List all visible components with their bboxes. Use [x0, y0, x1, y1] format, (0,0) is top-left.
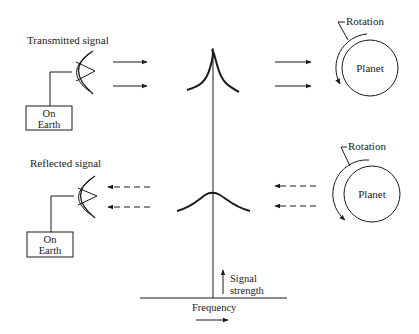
earth-station-box-top: On Earth: [26, 106, 72, 130]
earth-station-box-bottom: On Earth: [27, 232, 73, 257]
earth-box-line1: On: [43, 108, 57, 119]
signal-label-line2: strength: [230, 285, 265, 296]
reflect-arrows-left: [108, 187, 150, 207]
transmit-arrows-left: [113, 62, 147, 86]
signal-label-line1: Signal: [230, 273, 257, 284]
earth-box-line2: Earth: [38, 119, 61, 130]
rotation-label-top: Rotation: [346, 15, 384, 27]
transmitted-section: Transmitted signal On Earth: [26, 15, 398, 130]
earth-box-line1: On: [44, 234, 58, 245]
radar-diagram: Transmitted signal On Earth: [0, 0, 419, 334]
reflected-signal-label: Reflected signal: [30, 157, 101, 169]
planet-bottom: Planet Rotation: [333, 140, 400, 222]
frequency-label: Frequency: [192, 302, 237, 313]
frequency-axes: Signal strength Frequency: [140, 48, 287, 320]
receive-antenna-icon: [51, 176, 97, 232]
reflect-arrows-right: [275, 186, 316, 206]
transmitted-signal-label: Transmitted signal: [27, 34, 109, 46]
planet-top: Planet Rotation: [336, 15, 398, 96]
rotation-label-bottom: Rotation: [348, 140, 386, 152]
transmit-arrows-right: [275, 62, 311, 86]
earth-box-line2: Earth: [39, 245, 62, 256]
planet-label-bottom: Planet: [358, 188, 386, 200]
transmit-antenna-icon: [50, 51, 95, 106]
planet-label-top: Planet: [356, 62, 384, 74]
